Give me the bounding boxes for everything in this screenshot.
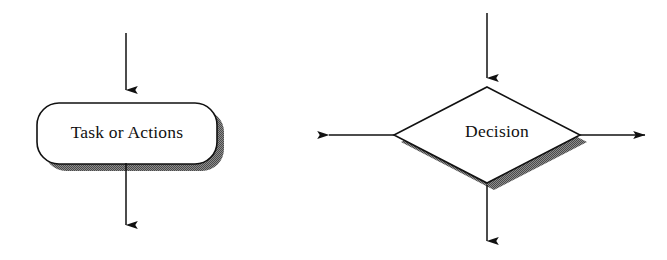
flowchart-canvas: Task or Actions Decision — [0, 0, 667, 260]
flowchart-svg: Task or Actions Decision — [0, 0, 667, 260]
decision-label: Decision — [465, 121, 529, 141]
node-task[interactable]: Task or Actions — [37, 103, 224, 171]
task-label: Task or Actions — [71, 122, 184, 142]
node-decision[interactable]: Decision — [394, 87, 587, 190]
